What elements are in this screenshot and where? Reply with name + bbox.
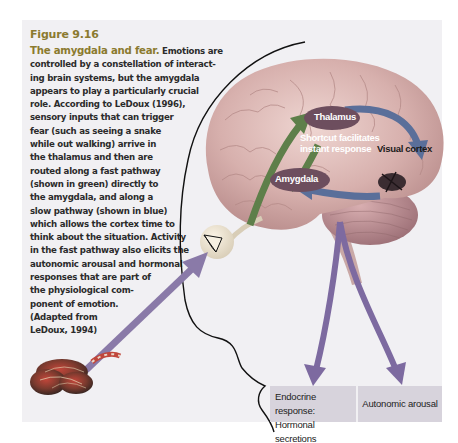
endocrine-output-arrow (316, 222, 340, 370)
shortcut-label-line2: instant response (300, 143, 371, 154)
endocrine-response-line2: Hormonal secretions (275, 418, 356, 443)
autonomic-arousal-label: Autonomic arousal (362, 397, 437, 411)
visual-cortex-label: Visual cortex (377, 143, 432, 154)
diagram-art (0, 0, 458, 443)
autonomic-arousal-box: Autonomic arousal (358, 386, 442, 422)
amygdala-label: Amygdala (275, 173, 318, 184)
endocrine-response-line1: Endocrine response: (275, 390, 356, 418)
snake-illustration (30, 354, 120, 395)
endocrine-response-box: Endocrine response: Hormonal secretions (270, 386, 356, 422)
thalamus-label: Thalamus (314, 111, 356, 122)
shortcut-label-line1: Shortcut facilitates (300, 132, 380, 143)
